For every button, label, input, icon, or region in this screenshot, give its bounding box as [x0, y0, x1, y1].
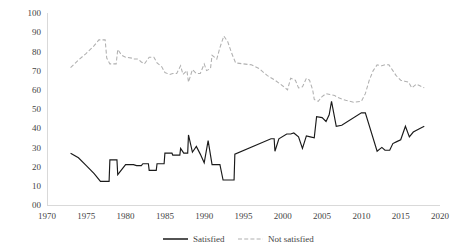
y-tick-label-20: 20 [32, 162, 42, 172]
line-chart: 00102030405060708090100 1970197519801985… [0, 0, 463, 252]
x-tick-label-1985: 1985 [156, 211, 175, 221]
y-tick-label-40: 40 [32, 123, 42, 133]
series-line-not-satisfied [71, 36, 425, 102]
x-axis-tick-labels: 1970197519801985199019952000200520102015… [38, 211, 450, 221]
y-tick-label-50: 50 [32, 104, 42, 114]
chart-legend: Satisfied Not satisfied [163, 234, 314, 244]
y-tick-label-10: 10 [32, 181, 42, 191]
series-line-satisfied [71, 101, 425, 181]
x-tick-label-1975: 1975 [77, 211, 96, 221]
y-tick-label-90: 90 [32, 27, 42, 37]
x-tick-label-2000: 2000 [274, 211, 293, 221]
x-tick-label-1980: 1980 [117, 211, 136, 221]
y-tick-label-70: 70 [32, 66, 42, 76]
y-tick-label-80: 80 [32, 47, 42, 57]
legend-label-satisfied: Satisfied [193, 234, 225, 244]
x-tick-label-1970: 1970 [38, 211, 57, 221]
chart-container: 00102030405060708090100 1970197519801985… [0, 0, 463, 252]
x-tick-label-2010: 2010 [352, 211, 371, 221]
legend-label-not-satisfied: Not satisfied [268, 234, 314, 244]
y-tick-label-30: 30 [32, 143, 42, 153]
x-tick-label-2020: 2020 [431, 211, 450, 221]
x-tick-label-1995: 1995 [235, 211, 254, 221]
y-tick-label-0: 00 [32, 200, 42, 210]
y-tick-label-100: 100 [28, 8, 42, 18]
y-axis-tick-labels: 00102030405060708090100 [28, 8, 42, 210]
x-tick-label-1990: 1990 [195, 211, 214, 221]
x-tick-label-2015: 2015 [392, 211, 411, 221]
x-tick-label-2005: 2005 [313, 211, 332, 221]
y-tick-label-60: 60 [32, 85, 42, 95]
